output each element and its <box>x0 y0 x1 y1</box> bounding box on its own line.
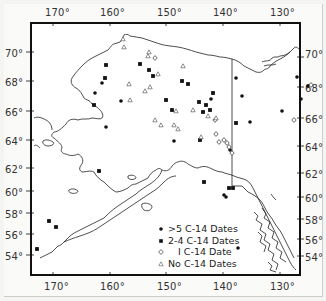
legend-label: No C-14 Dates <box>168 258 237 270</box>
site-marker-triangle <box>127 82 131 86</box>
site-marker-square <box>180 79 184 83</box>
legend-label: I C-14 Date <box>178 246 232 258</box>
site-marker-triangle <box>128 98 132 102</box>
site-marker-square <box>202 180 206 184</box>
site-marker-square <box>164 98 168 102</box>
site-marker-square <box>204 103 208 107</box>
site-marker-square <box>92 103 96 107</box>
site-marker-circle <box>209 97 213 101</box>
site-marker-triangle <box>147 50 151 54</box>
site-marker-square <box>211 91 215 95</box>
site-marker-circle <box>93 91 97 95</box>
site-marker-square <box>231 186 235 190</box>
site-marker-circle <box>172 139 176 143</box>
site-marker-square <box>208 108 212 112</box>
site-marker-triangle <box>174 109 178 113</box>
open-triangle-icon <box>156 258 166 269</box>
filled-circle-icon <box>156 223 166 234</box>
site-marker-triangle <box>172 123 176 127</box>
site-marker-square <box>201 110 205 114</box>
site-marker-circle <box>104 125 108 129</box>
site-marker-square <box>54 225 58 229</box>
site-marker-triangle <box>181 64 185 68</box>
site-marker-square <box>97 169 101 173</box>
site-marker-square <box>147 68 151 72</box>
site-marker-circle <box>240 94 244 98</box>
site-marker-circle <box>236 246 240 250</box>
site-marker-square <box>151 74 155 78</box>
site-marker-triangle <box>143 89 147 93</box>
site-marker-diamond <box>214 132 218 137</box>
site-marker-circle <box>248 120 252 124</box>
site-marker-square <box>47 219 51 223</box>
site-marker-circle <box>299 97 303 101</box>
site-marker-triangle <box>148 85 152 89</box>
site-marker-square <box>227 186 231 190</box>
site-marker-square <box>170 108 174 112</box>
site-marker-square <box>234 121 238 125</box>
site-marker-diamond <box>292 118 296 123</box>
site-marker-square <box>138 62 142 66</box>
site-marker-triangle <box>191 108 195 112</box>
site-marker-square <box>186 82 190 86</box>
site-marker-circle <box>100 81 104 85</box>
site-marker-square <box>197 100 201 104</box>
sites-no-dates <box>121 37 218 139</box>
coastline <box>34 34 300 272</box>
site-marker-triangle <box>153 118 157 122</box>
site-marker-triangle <box>156 72 160 76</box>
legend-label: >5 C-14 Dates <box>168 223 238 235</box>
site-marker-triangle <box>206 114 210 118</box>
site-marker-triangle <box>122 45 126 49</box>
site-marker-square <box>35 247 39 251</box>
site-marker-triangle <box>121 37 125 41</box>
site-marker-circle <box>222 193 226 197</box>
site-marker-triangle <box>176 127 180 131</box>
open-diamond-icon <box>156 246 166 257</box>
site-marker-triangle <box>146 54 150 58</box>
site-marker-square <box>103 76 107 80</box>
site-marker-circle <box>295 75 299 79</box>
site-marker-circle <box>119 99 123 103</box>
site-marker-circle <box>280 109 284 113</box>
site-marker-diamond <box>153 56 157 61</box>
filled-square-icon <box>156 235 166 246</box>
site-marker-triangle <box>159 123 163 127</box>
site-marker-diamond <box>217 140 221 145</box>
site-marker-circle <box>234 76 238 80</box>
site-marker-square <box>104 63 108 67</box>
legend-label: 2-4 C-14 Dates <box>168 235 239 247</box>
site-marker-triangle <box>199 135 203 139</box>
sites-1-date <box>153 56 313 156</box>
